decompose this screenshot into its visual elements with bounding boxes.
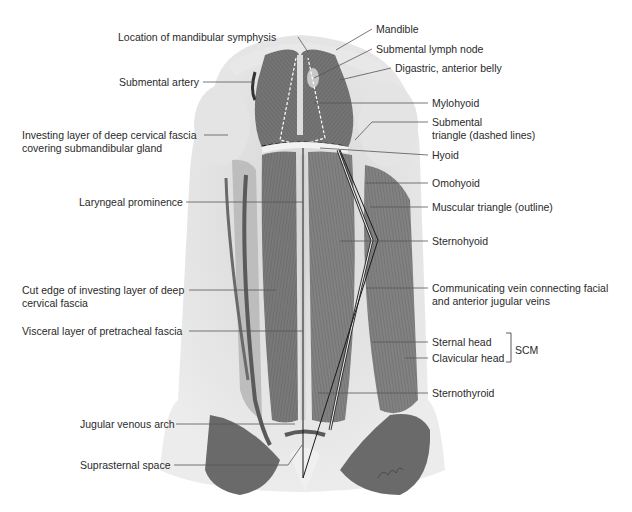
- label-sternothyroid: Sternothyroid: [432, 387, 494, 400]
- label-visceral-layer: Visceral layer of pretracheal fascia: [22, 325, 182, 338]
- label-sternal-head: Sternal head: [432, 336, 492, 349]
- label-cut-edge-line1: Cut edge of investing layer of deep: [22, 284, 184, 297]
- label-digastric-anterior-belly: Digastric, anterior belly: [395, 62, 502, 75]
- label-sternohyoid: Sternohyoid: [432, 235, 488, 248]
- anatomy-figure: Location of mandibular symphysis Subment…: [0, 0, 632, 512]
- label-investing-layer-line1: Investing layer of deep cervical fascia: [22, 129, 197, 142]
- label-mylohyoid: Mylohyoid: [432, 97, 479, 110]
- label-communicating-vein-line2: and anterior jugular veins: [432, 295, 550, 308]
- suprahyoid-muscles: [255, 50, 354, 149]
- label-communicating-vein-line1: Communicating vein connecting facial: [432, 282, 608, 295]
- label-submental-triangle-line1: Submental: [432, 116, 482, 129]
- label-hyoid: Hyoid: [432, 149, 459, 162]
- neck-illustration: [0, 0, 632, 512]
- label-omohyoid: Omohyoid: [432, 177, 480, 190]
- label-mandible: Mandible: [376, 23, 419, 36]
- label-muscular-triangle: Muscular triangle (outline): [432, 201, 553, 214]
- label-clavicular-head: Clavicular head: [432, 352, 504, 365]
- label-mandibular-symphysis: Location of mandibular symphysis: [118, 31, 304, 44]
- label-submental-artery: Submental artery: [119, 76, 199, 89]
- label-submental-lymph-node: Submental lymph node: [376, 43, 483, 56]
- label-submental-triangle-line2: triangle (dashed lines): [432, 129, 535, 142]
- label-scm-group: SCM: [515, 344, 538, 356]
- label-cut-edge-line2: cervical fascia: [22, 297, 88, 310]
- label-jugular-venous-arch: Jugular venous arch: [80, 418, 175, 431]
- label-suprasternal-space: Suprasternal space: [80, 459, 170, 472]
- label-investing-layer-line2: covering submandibular gland: [22, 142, 162, 155]
- label-laryngeal-prominence: Laryngeal prominence: [79, 196, 183, 209]
